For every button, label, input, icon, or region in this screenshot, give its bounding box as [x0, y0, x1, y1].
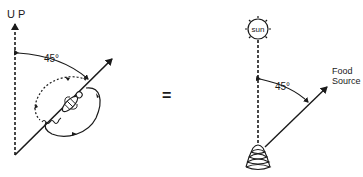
dashed-return-loop [35, 77, 86, 120]
food-source-label-line2: Source [332, 76, 361, 86]
up-label: U P [7, 8, 25, 20]
loop-arrowhead-icon [34, 104, 38, 109]
food-direction-arrow [265, 87, 327, 147]
sun-label: sun [252, 25, 265, 34]
equals-sign: = [162, 87, 171, 104]
right-panel: sun 45° Food Source [245, 16, 361, 170]
angle-label-left: 45° [44, 53, 59, 64]
solid-return-loop [45, 88, 100, 136]
bee-icon [58, 88, 87, 117]
left-panel: U P 45° [7, 8, 112, 155]
loop-arrowhead-icon [65, 77, 70, 81]
diagram-canvas: U P 45° [0, 0, 363, 177]
beehive-icon [246, 145, 270, 170]
angle-label-right: 45° [275, 81, 290, 92]
food-source-label-line1: Food [332, 66, 353, 76]
